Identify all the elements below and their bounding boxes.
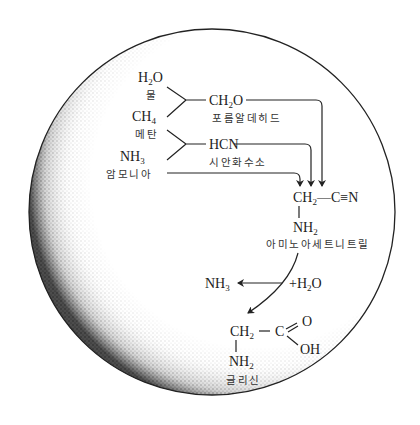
svg-text:O: O (302, 314, 312, 329)
svg-text:+H2O: +H2O (289, 276, 322, 293)
svg-text:CH2O: CH2O (209, 93, 243, 110)
sphere (29, 29, 395, 395)
label-ammonia: 암모니아 (106, 168, 152, 180)
svg-text:CH2—C≡N: CH2—C≡N (293, 190, 358, 207)
label-water: 물 (146, 89, 158, 101)
svg-text:OH: OH (300, 342, 320, 357)
label-hcn: 시안화수소 (209, 156, 267, 168)
sphere-shading (29, 29, 395, 395)
label-formaldehyde: 포름알데히드 (212, 112, 281, 124)
label-aminoacetonitrile: 아미노아세트니트릴 (266, 238, 370, 250)
label-methane: 메탄 (135, 128, 158, 140)
svg-text:C: C (275, 324, 284, 339)
reaction-diagram: H2O 물 CH4 메탄 NH3 암모니아 CH2O 포름알데히드 HCN 시안… (0, 0, 420, 425)
label-glycine: 글리신 (226, 374, 261, 386)
hydrolysis-reagent: +H2O (289, 276, 322, 293)
diagram-canvas: H2O 물 CH4 메탄 NH3 암모니아 CH2O 포름알데히드 HCN 시안… (0, 0, 420, 425)
